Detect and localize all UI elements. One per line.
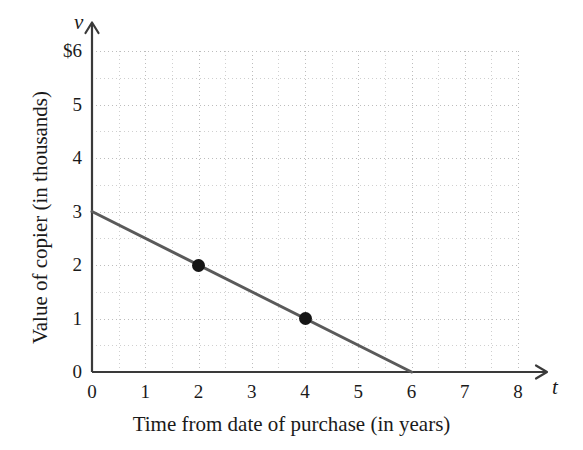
gridline-horizontal <box>92 185 518 186</box>
x-tick-label: 0 <box>87 381 97 403</box>
gridline-vertical <box>518 51 519 372</box>
y-tick-label: $6 <box>30 40 82 62</box>
x-tick-label: 7 <box>460 381 470 403</box>
x-tick-label: 2 <box>194 381 204 403</box>
gridline-horizontal <box>92 292 518 293</box>
chart-figure: 012345$6 012345678 v t Time from date of… <box>0 0 583 450</box>
x-tick-label: 1 <box>141 381 151 403</box>
gridline-horizontal <box>92 131 518 132</box>
x-axis-arrowhead <box>536 366 547 379</box>
y-axis-arrowhead <box>86 23 99 34</box>
gridline-horizontal <box>92 238 518 239</box>
x-axis-variable-label: t <box>552 375 558 400</box>
data-point-marker <box>299 312 312 325</box>
data-point-marker <box>192 259 205 272</box>
gridline-horizontal <box>92 158 518 159</box>
x-tick-label: 8 <box>513 381 523 403</box>
gridline-horizontal <box>92 105 518 106</box>
y-axis-variable-label: v <box>74 10 83 35</box>
x-tick-label: 4 <box>300 381 310 403</box>
gridline-horizontal <box>92 345 518 346</box>
x-tick-label: 5 <box>354 381 364 403</box>
gridline-horizontal <box>92 78 518 79</box>
y-axis-title: Value of copier (in thousands) <box>28 68 53 368</box>
gridline-horizontal <box>92 51 518 52</box>
gridline-horizontal <box>92 265 518 266</box>
gridline-horizontal <box>92 212 518 213</box>
gridline-horizontal <box>92 372 518 373</box>
x-tick-label: 6 <box>407 381 417 403</box>
x-axis-title: Time from date of purchase (in years) <box>0 412 583 437</box>
x-tick-label: 3 <box>247 381 257 403</box>
